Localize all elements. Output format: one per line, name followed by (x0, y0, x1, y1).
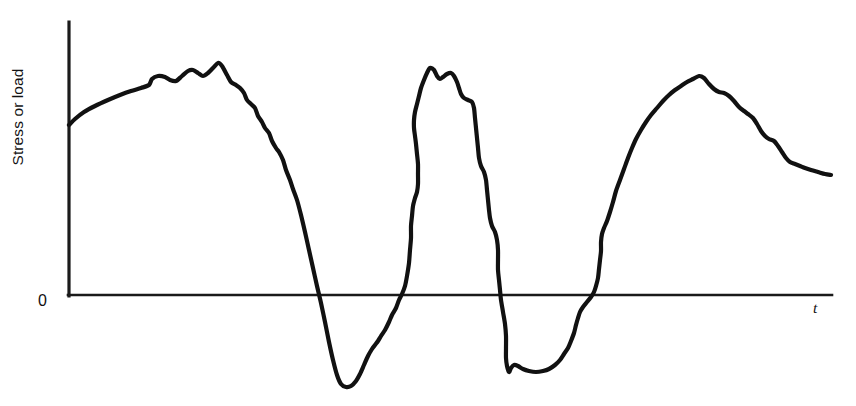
origin-label: 0 (38, 292, 47, 310)
x-axis-label: t (813, 299, 817, 317)
stress-load-curve (69, 63, 831, 387)
y-axis-label: Stress or load (9, 57, 27, 177)
stress-load-plot (0, 0, 856, 406)
figure-container: Stress or load 0 t (0, 0, 856, 406)
axes-group (68, 22, 832, 296)
